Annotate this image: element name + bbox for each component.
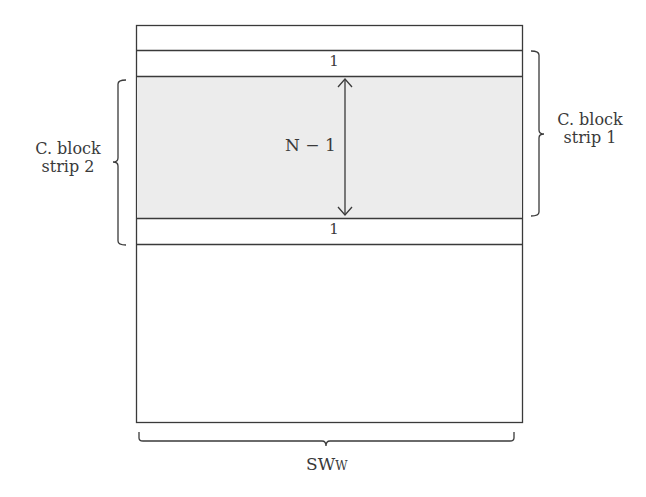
right-brace-label-line2: strip 1 — [552, 129, 628, 147]
bottom-row-label: 1 — [324, 221, 344, 238]
diagram-canvas — [0, 0, 646, 497]
right-brace-label: C. block strip 1 — [552, 111, 628, 148]
bottom-brace-icon — [139, 432, 514, 446]
top-row-label: 1 — [324, 53, 344, 70]
right-brace-icon — [531, 51, 544, 216]
left-brace-label-line2: strip 2 — [30, 158, 106, 176]
middle-height-label: N − 1 — [285, 136, 336, 156]
width-label: SWW — [306, 455, 347, 475]
width-label-main: SW — [306, 454, 335, 474]
width-label-subscript: W — [335, 459, 347, 473]
right-brace-label-line1: C. block — [552, 111, 628, 129]
left-brace-label-line1: C. block — [30, 140, 106, 158]
left-brace-label: C. block strip 2 — [30, 140, 106, 177]
left-brace-icon — [113, 80, 126, 245]
